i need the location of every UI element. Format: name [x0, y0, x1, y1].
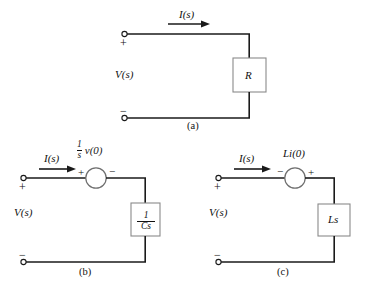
element-label-capacitor-b: 1 Cs: [137, 211, 155, 232]
current-label-b: I(s): [44, 153, 59, 164]
current-arrow-b: [39, 166, 76, 173]
source-initial-condition-b: v(0): [85, 145, 103, 156]
current-label-a: I(s): [179, 9, 194, 20]
source-label-c: Li(0): [283, 148, 305, 159]
figure-circuit-models: I(s) + − V(s) R (a) I(s) + − V(s) 1 s v(…: [0, 0, 374, 289]
polarity-minus-b: −: [19, 249, 26, 261]
current-label-c: I(s): [239, 153, 254, 164]
caption-a: (a): [187, 121, 199, 132]
polarity-plus-b: +: [19, 181, 26, 193]
source-fraction-b: 1 s: [77, 140, 82, 161]
voltage-source-circle-b: [86, 168, 106, 188]
source-polarity-left-c: −: [277, 166, 283, 177]
current-arrow-a: [168, 21, 210, 28]
capacitor-fraction-denominator-b: Cs: [137, 221, 155, 232]
caption-c: (c): [277, 267, 289, 278]
element-label-resistor-a: R: [245, 70, 252, 81]
polarity-plus-c: +: [214, 181, 221, 193]
voltage-source-circle-c: [285, 168, 305, 188]
polarity-plus-a: +: [120, 37, 127, 49]
voltage-label-b: V(s): [14, 207, 32, 218]
circuit-lines-layer: [0, 0, 374, 289]
source-polarity-left-b: +: [78, 167, 84, 178]
source-fraction-denominator-b: s: [77, 150, 82, 161]
source-polarity-right-c: +: [308, 167, 314, 178]
voltage-label-c: V(s): [209, 207, 227, 218]
voltage-label-a: V(s): [115, 69, 133, 80]
source-fraction-numerator-b: 1: [77, 140, 82, 150]
source-label-b: 1 s v(0): [77, 140, 102, 161]
source-polarity-right-b: −: [109, 166, 115, 177]
polarity-minus-a: −: [120, 105, 127, 117]
caption-b: (b): [79, 267, 91, 278]
element-label-inductor-c: Ls: [328, 214, 338, 225]
current-arrow-c: [234, 166, 271, 173]
capacitor-fraction-numerator-b: 1: [137, 211, 155, 221]
polarity-minus-c: −: [214, 249, 221, 261]
